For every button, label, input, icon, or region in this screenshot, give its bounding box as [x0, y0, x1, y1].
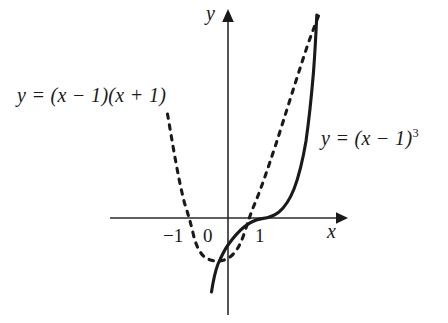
- cubic-equation-exponent: 3: [412, 126, 419, 140]
- plot-canvas: [0, 0, 448, 323]
- x-axis-label: x: [327, 221, 336, 241]
- x-tick-label-one: 1: [255, 226, 265, 245]
- x-tick-label-negative-one: −1: [163, 226, 183, 245]
- math-figure: y = (x − 1)(x + 1) y = (x − 1)3 y x −1 0…: [0, 0, 448, 323]
- y-axis-label: y: [206, 3, 215, 23]
- origin-label: 0: [203, 226, 213, 245]
- y-axis-arrowhead: [222, 9, 234, 22]
- x-axis-arrowhead: [336, 212, 348, 224]
- axes-group: [110, 9, 348, 315]
- parabola-path: [168, 12, 321, 261]
- cubic-equation-base: y = (x − 1): [321, 127, 412, 149]
- parabola-curve: [168, 12, 321, 261]
- cubic-equation-label: y = (x − 1)3: [321, 128, 419, 148]
- parabola-equation-label: y = (x − 1)(x + 1): [17, 85, 166, 105]
